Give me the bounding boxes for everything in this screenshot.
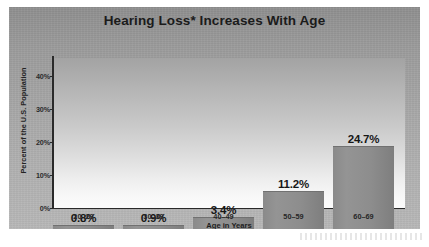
bar-group-0: 0.8% (53, 79, 114, 229)
x-tick-label-50-59: 50–59 (263, 212, 324, 221)
y-axis-tick-labels: 0% 10% 20% 30% 40% (11, 7, 50, 229)
x-tick-label-60-69: 60–69 (333, 212, 394, 221)
scan-artifact-text (300, 233, 424, 240)
bar-group-3: 11.2% (263, 79, 324, 229)
x-tick-label-20-29: 20–29 (53, 212, 114, 221)
bar-group-1: 0.9% (123, 79, 184, 229)
chart-panel: Hearing Loss* Increases With Age 0% 10% … (9, 7, 420, 229)
x-tick-label-40-49: 40–49 (193, 212, 254, 221)
y-tick-label-0: 0% (16, 204, 50, 213)
bar-value-50-59: 11.2% (278, 178, 309, 190)
y-axis-title: Percent of the U.S. Population (19, 56, 28, 186)
x-tick-label-30-39: 30–39 (123, 212, 184, 221)
x-axis-title: Age in Years (53, 221, 405, 229)
bar-group-2: 3.4% (193, 79, 254, 229)
hearing-loss-bar-chart-figure: Hearing Loss* Increases With Age 0% 10% … (0, 0, 429, 247)
bar-group-4: 24.7% (333, 79, 394, 229)
chart-title: Hearing Loss* Increases With Age (9, 13, 420, 28)
bar-value-60-69: 24.7% (348, 133, 380, 145)
y-tick-mark-40 (50, 76, 53, 77)
